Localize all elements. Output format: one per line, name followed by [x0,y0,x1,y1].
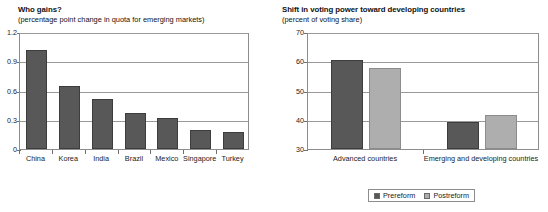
bar [190,130,211,149]
x-tick-mark [183,150,184,154]
y-tick-label: 30 [296,146,304,153]
gridline [20,33,248,34]
y-tick-label: 60 [296,58,304,65]
y-axis-who-gains: 00.30.60.91.2 [0,33,17,150]
x-tick-mark [85,150,86,154]
legend-label-postreform: Postreform [433,192,469,199]
y-tick-label: 0.9 [7,58,17,65]
x-tick-mark [118,150,119,154]
bar [26,50,47,149]
y-tick-label: 0.3 [7,117,17,124]
bar [369,68,401,149]
x-tick-mark [150,150,151,154]
y-tick-label: 70 [296,29,304,36]
legend-item-postreform: Postreform [424,192,469,199]
y-axis-voting-power: 3040506070 [284,33,304,150]
bar [331,60,363,149]
legend-swatch-postreform [424,193,430,199]
x-axis-label: Turkey [212,155,253,164]
y-tick-label: 0.6 [7,88,17,95]
chart-title-voting-power: Shift in voting power toward developing … [282,5,540,15]
y-tick-label: 1.2 [7,29,17,36]
legend-label-prereform: Prereform [383,192,415,199]
gridline [308,33,538,34]
x-tick-mark [423,150,424,154]
bar [485,115,517,149]
chart-subtitle-who-gains: (percentage point change in quota for em… [18,15,268,25]
y-tick-label: 50 [296,88,304,95]
bar [447,122,479,149]
gridline [20,92,248,93]
x-tick-mark [216,150,217,154]
bar [125,113,146,149]
legend-item-prereform: Prereform [374,192,415,199]
y-tick-mark [304,150,308,151]
chart-title-who-gains: Who gains? [18,5,268,15]
x-tick-mark [19,150,20,154]
bar [59,86,80,149]
plot-area-who-gains [19,33,249,150]
y-tick-label: 40 [296,117,304,124]
chart-subtitle-voting-power: (percent of voting share) [282,15,540,25]
gridline [20,62,248,63]
bar [223,132,244,149]
bar [92,99,113,149]
x-axis-label: Advanced countries [307,155,423,164]
bar [157,118,178,149]
plot-area-voting-power [307,33,539,150]
chart-legend: Prereform Postreform [368,189,475,202]
legend-swatch-prereform [374,193,380,199]
x-axis-label: Emerging and developing countries [423,155,539,164]
x-tick-mark [52,150,53,154]
